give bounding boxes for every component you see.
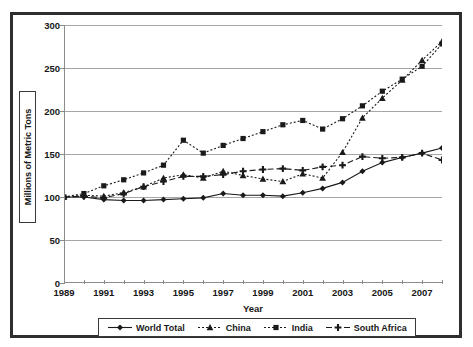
x-tick-label: 2007	[412, 287, 433, 298]
x-tick-label: 1991	[93, 287, 114, 298]
legend-label: South Africa	[354, 323, 407, 333]
legend-item-world-total[interactable]: World Total	[107, 322, 185, 333]
y-tick-label: 50	[49, 235, 60, 246]
x-tick-mark	[323, 280, 324, 284]
x-tick-label: 1997	[213, 287, 234, 298]
x-tick-label: 2003	[332, 287, 353, 298]
y-tick-label: 250	[44, 63, 60, 74]
x-tick-mark	[124, 280, 125, 284]
y-tick-mark	[60, 111, 64, 112]
legend-label: China	[226, 323, 251, 333]
legend-swatch	[197, 322, 223, 333]
x-tick-mark	[104, 280, 105, 284]
y-tick-label: 200	[44, 106, 60, 117]
x-tick-label: 2001	[292, 287, 313, 298]
y-axis-tick-labels: 050100150200250300	[33, 25, 60, 283]
x-tick-label: 1999	[252, 287, 273, 298]
x-axis-tick-labels: 1989199119931995199719992001200320052007	[64, 287, 442, 303]
y-tick-mark	[60, 25, 64, 26]
legend-item-china[interactable]: China	[197, 322, 251, 333]
x-tick-mark	[402, 280, 403, 284]
y-tick-mark	[60, 154, 64, 155]
y-tick-label: 300	[44, 20, 60, 31]
x-tick-label: 1989	[53, 287, 74, 298]
plot-area	[64, 25, 442, 283]
chart-legend: World TotalChinaIndiaSouth Africa	[98, 318, 416, 337]
x-tick-mark	[422, 280, 423, 284]
x-tick-mark	[203, 280, 204, 284]
legend-item-south-africa[interactable]: South Africa	[325, 322, 407, 333]
legend-swatch	[263, 322, 289, 333]
legend-swatch	[325, 322, 351, 333]
legend-swatch	[107, 322, 133, 333]
x-tick-mark	[263, 280, 264, 284]
y-tick-label: 150	[44, 149, 60, 160]
figure-frame: Millions of Metric Tons 0501001502002503…	[10, 12, 462, 338]
x-tick-mark	[84, 280, 85, 284]
figure-inner: Millions of Metric Tons 0501001502002503…	[13, 15, 459, 335]
x-tick-mark	[442, 280, 443, 284]
data-point-marker	[273, 325, 278, 330]
legend-label: India	[292, 323, 313, 333]
data-point-marker	[117, 325, 123, 331]
x-tick-mark	[223, 280, 224, 284]
x-tick-mark	[283, 280, 284, 284]
y-axis-title-label: Millions of Metric Tons	[23, 109, 33, 206]
legend-label: World Total	[136, 323, 185, 333]
axis-tick-marks	[64, 25, 442, 283]
y-tick-mark	[60, 68, 64, 69]
x-axis-title: Year	[64, 303, 442, 314]
y-tick-mark	[60, 240, 64, 241]
x-tick-label: 2005	[372, 287, 393, 298]
y-tick-label: 100	[44, 192, 60, 203]
x-tick-label: 1993	[133, 287, 154, 298]
legend-item-india[interactable]: India	[263, 322, 313, 333]
x-tick-mark	[243, 280, 244, 284]
data-point-marker	[334, 324, 341, 331]
x-tick-mark	[343, 280, 344, 284]
x-tick-mark	[303, 280, 304, 284]
x-tick-label: 1995	[173, 287, 194, 298]
x-tick-mark	[163, 280, 164, 284]
x-tick-mark	[382, 280, 383, 284]
y-tick-mark	[60, 197, 64, 198]
x-tick-mark	[64, 280, 65, 284]
x-tick-mark	[183, 280, 184, 284]
x-tick-mark	[362, 280, 363, 284]
x-tick-mark	[144, 280, 145, 284]
